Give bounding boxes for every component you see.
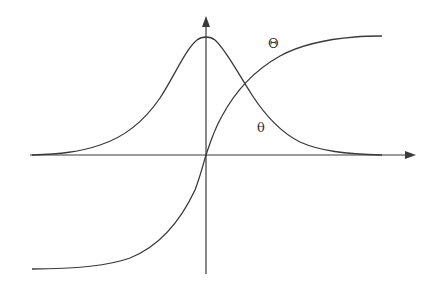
theta-lower-label: θ xyxy=(257,120,265,135)
y-axis-arrow-icon xyxy=(202,16,210,27)
diagram-canvas: Θ θ xyxy=(0,0,437,289)
theta-upper-label: Θ xyxy=(268,36,279,51)
x-axis-arrow-icon xyxy=(405,151,416,159)
bell-curve xyxy=(32,37,382,155)
sigmoid-curve xyxy=(32,36,382,269)
